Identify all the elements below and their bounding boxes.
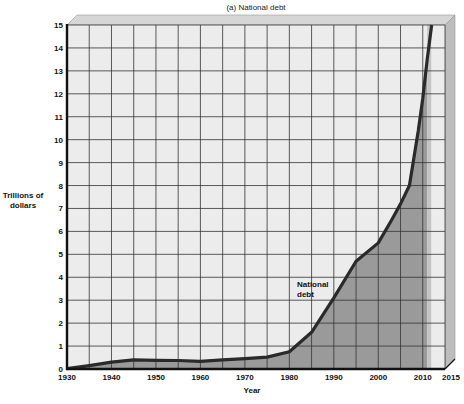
svg-text:2: 2	[59, 319, 64, 328]
svg-text:11: 11	[55, 113, 64, 122]
svg-text:2010: 2010	[414, 373, 432, 382]
svg-text:1960: 1960	[192, 373, 210, 382]
svg-text:15: 15	[54, 21, 63, 30]
svg-text:14: 14	[54, 44, 63, 53]
svg-text:1980: 1980	[280, 373, 298, 382]
svg-text:1930: 1930	[58, 373, 76, 382]
svg-text:7: 7	[59, 204, 64, 213]
svg-text:3: 3	[59, 296, 64, 305]
national-debt-chart: (a) National debt 0123456789101112131415…	[0, 0, 464, 404]
svg-text:6: 6	[59, 227, 64, 236]
svg-text:9: 9	[59, 159, 64, 168]
svg-text:1940: 1940	[103, 373, 121, 382]
svg-text:1950: 1950	[147, 373, 165, 382]
svg-text:debt: debt	[297, 290, 314, 299]
y-tick-labels: 0123456789101112131415	[54, 21, 63, 374]
svg-text:5: 5	[59, 250, 64, 259]
svg-text:National: National	[297, 280, 329, 289]
svg-text:2000: 2000	[369, 373, 387, 382]
svg-text:dollars: dollars	[10, 201, 37, 210]
svg-text:1990: 1990	[325, 373, 343, 382]
svg-text:8: 8	[59, 182, 64, 191]
svg-text:4: 4	[59, 273, 64, 282]
svg-text:1: 1	[59, 342, 64, 351]
x-axis-label: Year	[244, 386, 261, 395]
chart-title: (a) National debt	[226, 3, 286, 12]
svg-text:13: 13	[54, 67, 63, 76]
svg-text:10: 10	[54, 136, 63, 145]
svg-text:Trillions of: Trillions of	[3, 191, 44, 200]
y-axis-label: Trillions ofdollars	[3, 191, 44, 210]
x-tick-labels: 1930194019501960197019801990200020102015	[58, 373, 460, 382]
svg-text:2015: 2015	[442, 373, 460, 382]
svg-text:1970: 1970	[236, 373, 254, 382]
svg-text:12: 12	[54, 90, 63, 99]
